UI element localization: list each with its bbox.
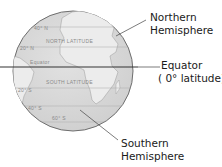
lat-40s-label: 40° S xyxy=(28,105,42,111)
lat-20n-label: 20° N xyxy=(20,45,34,51)
equator-label: Equator ( 0° latitude) xyxy=(161,59,222,85)
southern-line2: Hemisphere xyxy=(121,150,184,163)
northern-line2: Hemisphere xyxy=(150,24,213,37)
north-latitude-label: NORTH LATITUDE xyxy=(46,38,93,44)
equator-line1: Equator xyxy=(161,59,222,72)
lat-20s-label: 20° S xyxy=(18,87,32,93)
southern-hemisphere-label: Southern Hemisphere xyxy=(121,137,184,163)
northern-leader-line xyxy=(116,20,146,36)
lat-40n-label: 40° N xyxy=(34,25,48,31)
equator-line2: ( 0° latitude) xyxy=(158,72,222,85)
northern-hemisphere-label: Northern Hemisphere xyxy=(150,11,213,37)
northern-line1: Northern xyxy=(150,11,213,24)
equator-small-label: Equator xyxy=(30,59,50,65)
south-latitude-label: SOUTH LATITUDE xyxy=(46,79,93,85)
southern-line1: Southern xyxy=(121,137,184,150)
lat-60s-label: 60° S xyxy=(52,115,66,121)
